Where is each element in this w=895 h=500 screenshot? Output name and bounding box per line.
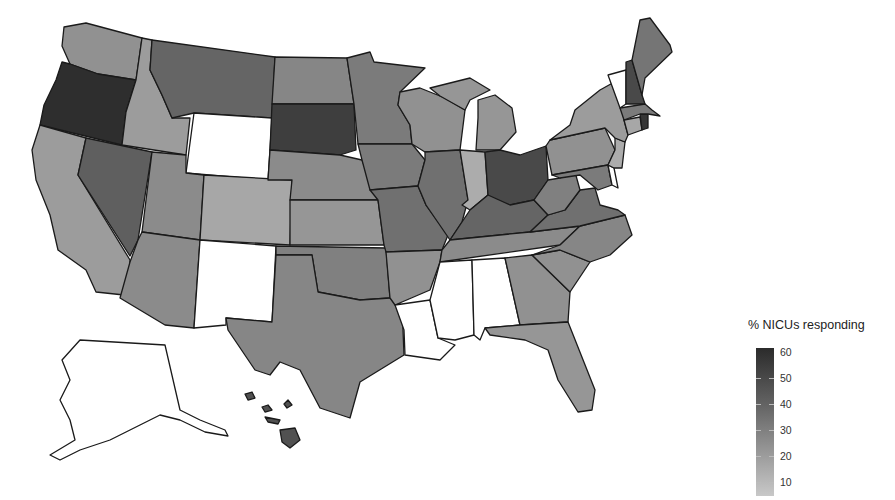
legend-tick-mark xyxy=(756,378,761,379)
legend-tick-mark xyxy=(769,482,774,483)
legend-tick-mark xyxy=(769,456,774,457)
legend-title: % NICUs responding xyxy=(748,318,865,332)
state-hawaii xyxy=(245,392,300,448)
legend-tick-label: 20 xyxy=(780,450,792,462)
legend-tick-mark xyxy=(756,404,761,405)
legend-tick-label: 30 xyxy=(780,424,792,436)
legend-colorbar xyxy=(756,348,774,496)
legend-tick-mark xyxy=(769,430,774,431)
state-wyoming xyxy=(186,113,272,180)
legend-tick-label: 60 xyxy=(780,346,792,358)
state-kansas xyxy=(290,200,384,245)
state-south-dakota xyxy=(270,104,356,155)
legend-tick-label: 40 xyxy=(780,398,792,410)
legend-tick-mark xyxy=(769,378,774,379)
legend-tick-mark xyxy=(756,430,761,431)
state-rhode-island xyxy=(640,114,648,130)
legend-tick-mark xyxy=(756,456,761,457)
state-north-dakota xyxy=(272,57,354,104)
legend-tick-mark xyxy=(756,482,761,483)
state-alaska xyxy=(50,340,228,460)
legend-tick-label: 50 xyxy=(780,372,792,384)
legend-tick-mark xyxy=(769,404,774,405)
state-montana xyxy=(150,40,275,118)
state-florida xyxy=(485,322,595,412)
state-iowa xyxy=(358,144,425,190)
state-connecticut xyxy=(624,117,642,135)
state-new-mexico xyxy=(194,240,276,328)
legend: % NICUs responding 605040302010 xyxy=(748,318,893,498)
state-colorado xyxy=(200,175,292,245)
legend-tick-label: 10 xyxy=(780,476,792,488)
